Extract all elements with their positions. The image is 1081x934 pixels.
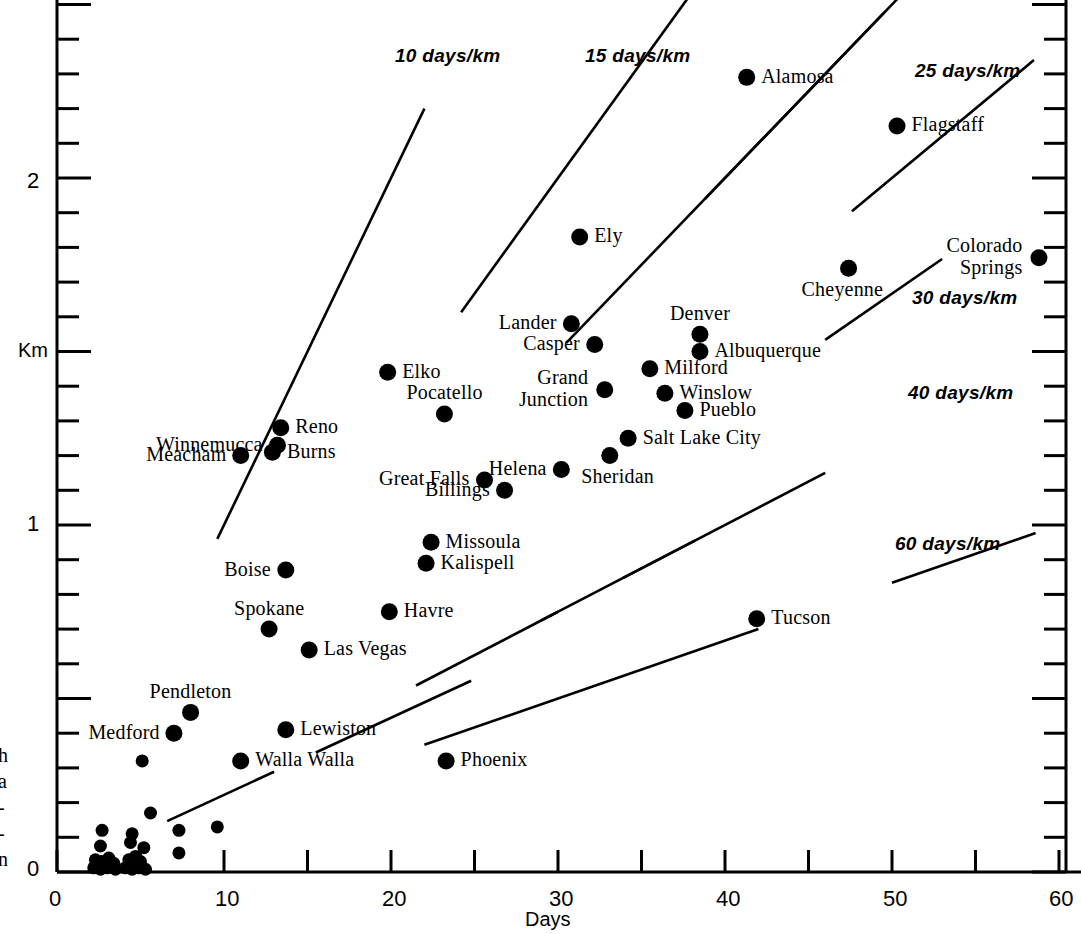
- data-point: [656, 385, 673, 402]
- point-label: Lander: [499, 312, 557, 333]
- point-label: Phoenix: [461, 749, 528, 770]
- point-label: Ely: [594, 225, 622, 246]
- data-point: [232, 752, 249, 769]
- rate-label-30: 30 days/km: [912, 287, 1017, 309]
- point-label: ColoradoSprings: [912, 234, 1022, 278]
- point-label: Pocatello: [406, 382, 482, 403]
- data-point: [172, 846, 185, 859]
- rate-line-40: [416, 612, 558, 686]
- scatter-plot-figure: ha--n 2 1 0 Km 0 10 20 30 40 50 60 Days …: [0, 0, 1081, 934]
- data-point: [691, 326, 708, 343]
- point-label: Elko: [402, 361, 441, 382]
- point-label: Cheyenne: [802, 279, 884, 300]
- data-point: [381, 603, 398, 620]
- data-point: [264, 444, 281, 461]
- data-point: [139, 863, 152, 876]
- data-point: [423, 534, 440, 551]
- data-point: [748, 610, 765, 627]
- data-point: [596, 381, 613, 398]
- data-point: [144, 807, 157, 820]
- point-label: Pendleton: [150, 681, 232, 702]
- data-point: [563, 315, 580, 332]
- data-point: [96, 824, 109, 837]
- rate-lines: [167, 0, 1035, 821]
- rate-label-60: 60 days/km: [895, 533, 1000, 555]
- point-label: Sheridan: [581, 466, 654, 487]
- data-point: [436, 405, 453, 422]
- point-label: Lewiston: [300, 718, 376, 739]
- rate-label-15: 15 days/km: [585, 45, 690, 67]
- point-label: Pueblo: [699, 399, 756, 420]
- point-label: Burns: [287, 441, 336, 462]
- point-label: Tucson: [771, 607, 830, 628]
- data-point: [553, 461, 570, 478]
- point-label: Helena: [489, 458, 547, 479]
- data-point: [379, 364, 396, 381]
- data-point: [738, 69, 755, 86]
- data-point: [496, 482, 513, 499]
- point-label: Milford: [664, 357, 728, 378]
- data-point: [586, 336, 603, 353]
- point-label: Casper: [523, 333, 580, 354]
- point-label: Las Vegas: [324, 638, 407, 659]
- data-point: [172, 824, 185, 837]
- data-point: [211, 820, 224, 833]
- rate-label-25: 25 days/km: [915, 60, 1020, 82]
- data-point: [571, 228, 588, 245]
- rate-line-45: [167, 772, 274, 821]
- rate-line-40: [541, 541, 695, 621]
- data-point: [277, 562, 294, 579]
- data-point: [261, 621, 278, 638]
- data-point: [840, 260, 857, 277]
- data-point: [277, 721, 294, 738]
- rate-line-60: [424, 629, 758, 745]
- data-point: [301, 641, 318, 658]
- data-point: [94, 839, 107, 852]
- data-point: [620, 430, 637, 447]
- data-point: [889, 117, 906, 134]
- data-point: [676, 402, 693, 419]
- point-label: Medford: [88, 722, 159, 743]
- point-label: Alamosa: [761, 66, 834, 87]
- data-point: [124, 836, 137, 849]
- rate-line-25: [852, 60, 1034, 211]
- point-label: Denver: [670, 303, 730, 324]
- data-point: [601, 447, 618, 464]
- data-points: [87, 69, 1047, 876]
- point-label: Missoula: [446, 531, 521, 552]
- point-label: Meacham: [146, 444, 226, 465]
- data-point: [136, 754, 149, 767]
- data-point: [418, 555, 435, 572]
- point-label: Billings: [425, 479, 490, 500]
- data-point: [438, 752, 455, 769]
- point-label: Boise: [224, 559, 271, 580]
- point-label: Kalispell: [441, 552, 515, 573]
- data-point: [272, 419, 289, 436]
- point-label: Reno: [295, 416, 338, 437]
- data-point: [641, 360, 658, 377]
- data-point: [182, 704, 199, 721]
- point-label: Spokane: [234, 598, 304, 619]
- rate-label-10: 10 days/km: [395, 45, 500, 67]
- point-label: Havre: [404, 600, 454, 621]
- point-label: Salt Lake City: [643, 427, 761, 448]
- point-label: Flagstaff: [912, 114, 985, 135]
- point-label: Albuquerque: [714, 340, 821, 361]
- data-point: [165, 725, 182, 742]
- rate-line-20: [705, 0, 909, 199]
- rate-label-40: 40 days/km: [908, 382, 1013, 404]
- data-point: [1030, 249, 1047, 266]
- point-label: Walla Walla: [255, 749, 354, 770]
